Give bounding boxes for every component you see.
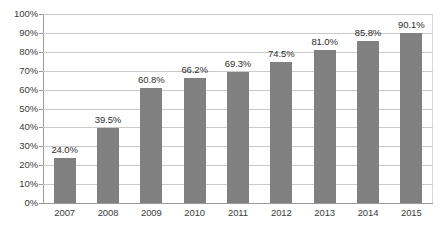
x-axis-tick-label: 2011 <box>216 208 259 218</box>
bar-value-label: 60.8% <box>138 75 164 85</box>
bar-group: 69.3% <box>216 14 259 203</box>
bar[interactable] <box>314 50 336 203</box>
bar[interactable] <box>400 33 422 203</box>
bar[interactable] <box>227 72 249 203</box>
y-axis-labels: 0%10%20%30%40%50%60%70%80%90%100% <box>0 0 38 233</box>
y-axis-tick <box>39 109 43 110</box>
x-axis-tick-label: 2008 <box>86 208 129 218</box>
y-axis-tick <box>39 146 43 147</box>
x-axis-tick-label: 2015 <box>390 208 433 218</box>
x-axis-tick-label: 2012 <box>260 208 303 218</box>
bar[interactable] <box>54 158 76 203</box>
bar-group: 60.8% <box>130 14 173 203</box>
y-axis-tick <box>39 165 43 166</box>
x-axis-tick-label: 2007 <box>43 208 86 218</box>
bar[interactable] <box>140 88 162 203</box>
gridline <box>43 203 433 204</box>
y-axis-tick-label: 10% <box>2 179 38 189</box>
bar-value-label: 81.0% <box>311 37 337 47</box>
y-axis-tick <box>39 52 43 53</box>
x-axis-tick-label: 2013 <box>303 208 346 218</box>
y-axis-tick-label: 60% <box>2 85 38 95</box>
y-axis-tick <box>39 127 43 128</box>
bar[interactable] <box>97 128 119 203</box>
bar-group: 39.5% <box>86 14 129 203</box>
x-axis-tick-label: 2009 <box>130 208 173 218</box>
y-axis-tick <box>39 203 43 204</box>
bar-chart: 0%10%20%30%40%50%60%70%80%90%100% 24.0%3… <box>0 0 445 233</box>
plot-area: 24.0%39.5%60.8%66.2%69.3%74.5%81.0%85.8%… <box>43 14 433 203</box>
bar-value-label: 69.3% <box>225 59 251 69</box>
y-axis-tick <box>39 33 43 34</box>
y-axis-tick-label: 20% <box>2 160 38 170</box>
y-axis-tick-label: 30% <box>2 141 38 151</box>
y-axis-tick <box>39 184 43 185</box>
y-axis-tick <box>39 90 43 91</box>
bar-group: 90.1% <box>390 14 433 203</box>
bar-value-label: 85.8% <box>355 28 381 38</box>
bar-group: 85.8% <box>346 14 389 203</box>
y-axis-tick-label: 90% <box>2 28 38 38</box>
y-axis-tick <box>39 71 43 72</box>
x-axis-labels: 200720082009201020112012201320142015 <box>43 208 433 228</box>
bar[interactable] <box>270 62 292 203</box>
y-axis-tick <box>39 14 43 15</box>
x-axis-tick-label: 2010 <box>173 208 216 218</box>
y-axis-tick-label: 100% <box>2 9 38 19</box>
bar[interactable] <box>357 41 379 203</box>
bar-value-label: 74.5% <box>268 49 294 59</box>
y-axis-tick-label: 40% <box>2 122 38 132</box>
y-axis-tick-label: 80% <box>2 47 38 57</box>
bar-value-label: 66.2% <box>181 65 207 75</box>
y-axis-tick-label: 50% <box>2 104 38 114</box>
y-axis-tick-label: 70% <box>2 66 38 76</box>
bar-group: 74.5% <box>260 14 303 203</box>
x-axis-tick-label: 2014 <box>346 208 389 218</box>
bar-value-label: 90.1% <box>398 20 424 30</box>
bar-value-label: 39.5% <box>95 115 121 125</box>
y-axis-tick-label: 0% <box>2 198 38 208</box>
bar-group: 66.2% <box>173 14 216 203</box>
bar-group: 24.0% <box>43 14 86 203</box>
bar[interactable] <box>184 78 206 203</box>
bar-value-label: 24.0% <box>51 145 77 155</box>
bar-group: 81.0% <box>303 14 346 203</box>
